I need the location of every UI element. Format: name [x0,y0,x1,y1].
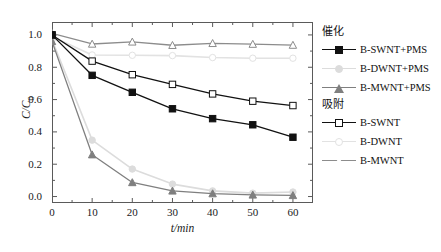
data-point [169,52,175,58]
legend-label: B-SWNT+PMS [360,44,427,56]
data-point [209,54,215,60]
legend-label: B-SWNT [360,117,400,129]
legend-item-b-mwnt[interactable]: B-MWNT [322,151,441,170]
data-point [89,58,95,64]
data-point [209,91,215,97]
data-point [129,52,135,58]
legend-item-b-dwnt-plus-pms[interactable]: B-DWNT+PMS [322,59,441,78]
legend-label: B-MWNT [360,155,404,167]
data-point [88,151,95,158]
x-tick-label: 20 [117,207,147,218]
legend-label: B-MWNT+PMS [360,82,431,94]
legend-group-header: 催化 [322,25,441,38]
legend-item-b-swnt[interactable]: B-SWNT [322,113,441,132]
y-axis-title-sub: 0 [26,96,36,100]
series-b-mwnt [52,30,297,49]
data-point [129,71,135,77]
data-point [52,32,55,38]
x-tick-label: 60 [278,207,308,218]
chart-legend: 催化B-SWNT+PMSB-DWNT+PMSB-MWNT+PMS吸附B-SWNT… [322,24,441,170]
data-point [129,179,136,186]
y-tick-label: 1.0 [8,29,42,40]
legend-marker [335,119,343,127]
legend-marker-circle-filled-icon [322,62,356,76]
data-point [250,55,256,61]
data-point [169,106,175,112]
data-point [129,89,135,95]
y-axis-title: C/C0 [20,78,35,138]
x-tick-label: 50 [238,207,268,218]
legend-marker-square-filled-icon [322,43,356,57]
figure-caption [0,245,441,252]
legend-marker-circle-open-icon [322,135,356,149]
x-tick-label: 40 [198,207,228,218]
legend-item-b-swnt-plus-pms[interactable]: B-SWNT+PMS [322,40,441,59]
data-point [209,115,215,121]
legend-marker-square-open-icon [322,116,356,130]
data-point [129,166,135,172]
data-point [169,81,175,87]
legend-marker [334,157,344,166]
data-series-group [52,30,297,199]
x-tick-label: 10 [77,207,107,218]
data-point [290,102,296,108]
chart-figure: 0.00.20.40.60.81.0 0102030405060 C/C0 t/… [0,0,441,252]
axis-ticks [52,22,313,203]
y-tick-label: 0.0 [8,191,42,202]
legend-marker [335,138,343,146]
y-tick-label: 0.8 [8,62,42,73]
plot-canvas [52,22,313,203]
x-tick-label: 30 [157,207,187,218]
data-point [250,98,256,104]
y-axis-title-main: C/C [20,101,32,120]
series-line [52,40,293,193]
data-point [290,134,296,140]
data-point [250,122,256,128]
legend-marker [335,46,343,54]
data-point [89,52,95,58]
legend-label: B-DWNT+PMS [360,63,429,75]
x-tick-label: 0 [37,207,67,218]
x-axis-tick-labels: 0102030405060 [0,207,441,221]
legend-marker [335,65,343,73]
legend-item-b-dwnt[interactable]: B-DWNT [322,132,441,151]
data-point [290,55,296,61]
legend-item-b-mwnt-plus-pms[interactable]: B-MWNT+PMS [322,78,441,97]
data-point [89,137,95,143]
y-tick-label: 0.2 [8,159,42,170]
legend-label: B-DWNT [360,136,402,148]
series-line [52,41,293,195]
legend-marker [334,84,344,93]
data-point [89,72,95,78]
x-axis-title: t/min [52,222,313,234]
legend-group-header: 吸附 [322,98,441,111]
legend-marker-triangle-filled-icon [322,81,356,95]
legend-marker-triangle-open-icon [322,154,356,168]
